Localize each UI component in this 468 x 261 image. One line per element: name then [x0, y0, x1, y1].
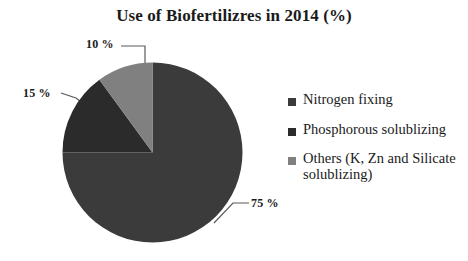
chart-title: Use of Biofertilizres in 2014 (%) [0, 6, 468, 26]
legend-swatch-icon [288, 157, 296, 165]
legend-item-phosphorous-solublizing: Phosphorous solublizing [288, 122, 466, 138]
data-label-phosphorous: 15 % [23, 86, 51, 101]
legend-item-nitrogen-fixing: Nitrogen fixing [288, 92, 466, 108]
legend-item-label: Nitrogen fixing [303, 92, 393, 108]
data-label-nitrogen: 75 % [251, 196, 279, 211]
legend-item-others: Others (K, Zn and Silicate solublizing) [288, 151, 466, 182]
pie-svg [62, 62, 243, 243]
legend-item-label: Others (K, Zn and Silicate solublizing) [303, 151, 466, 182]
data-label-others: 10 % [86, 37, 114, 52]
chart-legend: Nitrogen fixing Phosphorous solublizing … [288, 92, 466, 197]
legend-swatch-icon [288, 98, 296, 106]
legend-item-label: Phosphorous solublizing [303, 122, 446, 138]
pie-graphic [62, 62, 243, 243]
legend-swatch-icon [288, 128, 296, 136]
pie-chart-figure: Use of Biofertilizres in 2014 (%) 10 % 1… [0, 0, 468, 261]
